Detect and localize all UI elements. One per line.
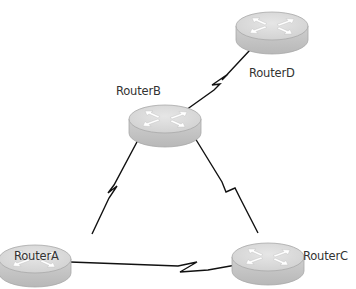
- link-routera-routerc: [70, 262, 236, 272]
- links: [70, 50, 258, 272]
- router-c-label: RouterC: [303, 249, 348, 263]
- link-routerb-routerd: [186, 50, 250, 110]
- router-a-label: RouterA: [14, 249, 59, 263]
- router-icon[interactable]: [129, 105, 201, 147]
- link-routerb-routerc: [195, 138, 258, 233]
- link-routerb-routera: [92, 140, 138, 234]
- router-icon[interactable]: [236, 12, 308, 54]
- router-b-label: RouterB: [116, 84, 161, 98]
- router-icon[interactable]: [232, 243, 304, 285]
- network-diagram: [0, 0, 356, 289]
- router-d-label: RouterD: [249, 66, 295, 80]
